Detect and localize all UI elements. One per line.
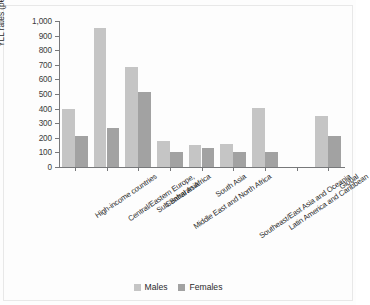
y-axis-tick — [55, 65, 59, 66]
bar-females — [170, 152, 183, 167]
y-axis-title: YLL rates (per 100,000) — [0, 0, 6, 47]
bar-males — [62, 109, 75, 167]
legend-label: Males — [145, 282, 168, 292]
y-axis-tick-label: 0 — [48, 163, 52, 172]
x-axis-tick — [233, 167, 234, 171]
bar-females — [233, 152, 246, 167]
x-axis-tick — [202, 167, 203, 171]
y-axis-tick-label: 100 — [39, 148, 52, 157]
y-axis-tick-label: 700 — [39, 60, 52, 69]
plot-area: 1,0009008007006005004003002001000 — [59, 21, 344, 167]
y-axis-tick — [55, 109, 59, 110]
legend-swatch-icon — [178, 284, 185, 291]
y-axis-tick-label: 600 — [39, 75, 52, 84]
x-axis-tick — [265, 167, 266, 171]
y-axis-tick-label: 400 — [39, 104, 52, 113]
bar-females — [202, 148, 215, 167]
y-axis-tick — [55, 94, 59, 95]
y-axis-tick-label: 900 — [39, 31, 52, 40]
bar-females — [75, 136, 88, 167]
legend-entry-females: Females — [178, 282, 222, 292]
y-axis-tick — [55, 50, 59, 51]
bar-females — [328, 136, 341, 167]
legend-entry-males: Males — [134, 282, 168, 292]
x-axis-tick — [107, 167, 108, 171]
bar-females — [138, 92, 151, 167]
bar-males — [125, 67, 138, 167]
bar-females — [265, 152, 278, 167]
y-axis-tick — [55, 167, 59, 168]
y-axis-tick-label: 200 — [39, 133, 52, 142]
x-axis-tick — [297, 167, 298, 171]
bar-males — [157, 141, 170, 167]
chart-legend: MalesFemales — [0, 282, 356, 292]
legend-swatch-icon — [134, 284, 141, 291]
x-axis-tick — [328, 167, 329, 171]
x-axis-tick — [138, 167, 139, 171]
y-axis-tick — [55, 79, 59, 80]
y-axis-tick — [55, 138, 59, 139]
legend-label: Females — [189, 282, 222, 292]
y-axis-tick — [55, 21, 59, 22]
bar-males — [189, 145, 202, 167]
y-axis-tick-label: 800 — [39, 46, 52, 55]
y-axis-tick — [55, 36, 59, 37]
y-axis-tick-label: 300 — [39, 119, 52, 128]
x-axis-tick — [75, 167, 76, 171]
bar-males — [220, 144, 233, 167]
bar-males — [94, 28, 107, 167]
y-axis-tick — [55, 123, 59, 124]
bar-males — [252, 108, 265, 167]
y-axis-tick-label: 500 — [39, 90, 52, 99]
x-axis-tick — [170, 167, 171, 171]
bar-males — [315, 116, 328, 167]
bar-females — [107, 128, 120, 167]
y-axis-tick-label: 1,000 — [32, 17, 52, 26]
y-axis-tick — [55, 152, 59, 153]
